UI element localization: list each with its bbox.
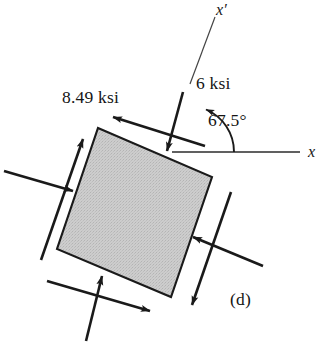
bottom-face-normal-arrow [86,276,102,341]
top-face-normal-arrow [167,92,183,151]
stress-element-figure: 8.49 ksi 6 ksi 67.5° x′ x (d) [0,0,327,343]
stress-element-square [57,128,212,297]
part-label: (d) [230,291,251,309]
x-axis-label: x [308,144,315,160]
figure-canvas [0,0,327,343]
normal-stress-label: 6 ksi [196,75,231,93]
left-face-normal-arrow [4,171,73,191]
right-face-normal-arrow [193,237,263,266]
x-prime-axis-label: x′ [216,2,227,18]
shear-stress-label: 8.49 ksi [62,89,119,107]
angle-label: 67.5° [208,112,247,130]
